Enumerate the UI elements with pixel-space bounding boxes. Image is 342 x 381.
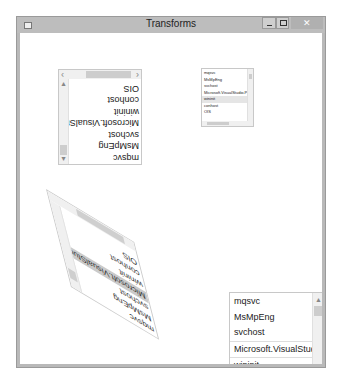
horizontal-scrollbar[interactable]: ‹ › — [59, 70, 141, 79]
list-item[interactable]: wininit — [69, 106, 141, 118]
scaled-listbox[interactable]: mqsvc MsMpEng svchost Microsoft.VisualSt… — [201, 68, 254, 127]
vertical-scrollbar[interactable]: ▲ — [312, 293, 322, 364]
scroll-thumb[interactable] — [60, 145, 67, 155]
list-item[interactable]: conhost — [69, 94, 141, 106]
list-item[interactable]: svchost — [69, 129, 141, 141]
vertical-scrollbar[interactable]: ▲ ▼ — [59, 79, 69, 164]
list-item[interactable]: MsMpEng — [230, 310, 313, 326]
scroll-thumb[interactable] — [249, 74, 252, 79]
horizontal-scrollbar[interactable] — [202, 121, 253, 126]
scroll-up-icon[interactable]: ▲ — [313, 296, 322, 304]
list-item[interactable]: MsMpEng — [69, 140, 141, 152]
scroll-left-icon[interactable]: ‹ — [136, 71, 139, 79]
scroll-right-icon[interactable]: › — [61, 71, 64, 79]
scroll-thumb[interactable] — [86, 71, 131, 78]
listbox-items: mqsvc MsMpEng svchost Microsoft.VisualSt… — [230, 294, 313, 364]
close-button[interactable]: ✕ — [291, 17, 323, 29]
list-item[interactable]: wininit — [230, 358, 313, 364]
list-item[interactable]: mqsvc — [230, 294, 313, 310]
maximize-button[interactable] — [276, 17, 289, 29]
vertical-scrollbar[interactable] — [247, 69, 253, 121]
listbox-items: mqsvc MsMpEng svchost Microsoft.VisualSt… — [69, 83, 141, 164]
transforms-window: Transforms ✕ mqsvc MsMpEng svchost Micro… — [16, 16, 326, 368]
plain-listbox[interactable]: mqsvc MsMpEng svchost Microsoft.VisualSt… — [229, 292, 322, 364]
list-item[interactable]: svchost — [230, 325, 313, 341]
list-item[interactable]: OIS — [69, 83, 141, 95]
list-item[interactable]: Microsoft.VisualStudio.Pe — [69, 117, 141, 129]
scroll-thumb[interactable] — [207, 122, 229, 125]
rotated-listbox[interactable]: mqsvc MsMpEng svchost Microsoft.VisualSt… — [58, 69, 142, 165]
list-item[interactable]: mqsvc — [69, 152, 141, 164]
minimize-button[interactable] — [262, 17, 276, 29]
title-bar[interactable]: Transforms ✕ — [17, 17, 325, 33]
scroll-thumb[interactable] — [68, 268, 78, 283]
list-item[interactable]: OIS — [202, 109, 248, 116]
listbox-items: mqsvc MsMpEng svchost Microsoft.VisualSt… — [202, 70, 248, 116]
scroll-up-icon[interactable]: ▲ — [59, 155, 68, 163]
scroll-down-icon[interactable]: ▼ — [59, 80, 68, 88]
list-item[interactable]: Microsoft.VisualStudio.Pe — [230, 341, 313, 359]
skewed-listbox[interactable]: mqsvc MsMpEng svchost Microsoft.VisualSt… — [46, 189, 159, 340]
client-area: mqsvc MsMpEng svchost Microsoft.VisualSt… — [20, 33, 322, 364]
scroll-thumb[interactable] — [314, 306, 322, 316]
